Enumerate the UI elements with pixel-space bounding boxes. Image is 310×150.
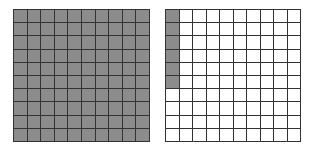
grid-cell bbox=[180, 50, 194, 63]
grid-cell bbox=[274, 116, 288, 129]
grid-cell bbox=[109, 10, 123, 23]
grid-cell bbox=[261, 76, 275, 89]
grid-cell bbox=[96, 129, 110, 142]
grid-cell bbox=[82, 23, 96, 36]
grid-cell bbox=[234, 50, 248, 63]
hundred-grid-fully-shaded bbox=[13, 9, 150, 142]
grid-cell bbox=[82, 10, 96, 23]
grid-cell bbox=[55, 63, 69, 76]
grid-cell bbox=[55, 50, 69, 63]
grid-cell bbox=[247, 63, 261, 76]
grid-cell bbox=[220, 23, 234, 36]
grid-cell bbox=[14, 102, 28, 115]
grid-cell bbox=[123, 63, 137, 76]
grid-cell bbox=[41, 36, 55, 49]
grid-cell bbox=[261, 50, 275, 63]
grid-cell bbox=[220, 102, 234, 115]
grid-cell bbox=[41, 76, 55, 89]
grid-cell bbox=[14, 89, 28, 102]
grid-cell bbox=[193, 76, 207, 89]
grid-cell bbox=[207, 102, 221, 115]
grid-cell bbox=[28, 23, 42, 36]
grid-cell bbox=[109, 23, 123, 36]
grid-cell bbox=[41, 102, 55, 115]
grid-cell bbox=[82, 36, 96, 49]
grid-cell bbox=[109, 116, 123, 129]
grid-cell bbox=[14, 23, 28, 36]
grid-cell bbox=[68, 76, 82, 89]
grid-cell bbox=[207, 129, 221, 142]
grid-cell bbox=[68, 23, 82, 36]
grid-cell bbox=[274, 23, 288, 36]
grid-cell bbox=[288, 89, 302, 102]
grid-cell bbox=[247, 89, 261, 102]
grid-cell bbox=[288, 76, 302, 89]
grid-cell bbox=[166, 116, 180, 129]
grid-cell bbox=[68, 89, 82, 102]
grid-cell bbox=[28, 10, 42, 23]
grid-cell bbox=[166, 129, 180, 142]
grid-cell bbox=[261, 89, 275, 102]
grid-cell bbox=[166, 10, 180, 23]
grid-cell bbox=[288, 129, 302, 142]
grid-cell bbox=[220, 116, 234, 129]
grid-cell bbox=[220, 129, 234, 142]
grid-cell bbox=[55, 89, 69, 102]
grid-cell bbox=[166, 23, 180, 36]
grid-cell bbox=[109, 63, 123, 76]
grid-cell bbox=[274, 10, 288, 23]
grid-cell bbox=[68, 36, 82, 49]
grid-cell bbox=[274, 102, 288, 115]
grid-cell bbox=[274, 36, 288, 49]
grid-cell bbox=[247, 10, 261, 23]
grid-cell bbox=[207, 116, 221, 129]
grid-cell bbox=[41, 63, 55, 76]
grid-cell bbox=[288, 116, 302, 129]
grid-cell bbox=[234, 76, 248, 89]
grid-cell bbox=[68, 10, 82, 23]
grid-cell bbox=[220, 89, 234, 102]
grid-cell bbox=[55, 76, 69, 89]
grid-cell bbox=[166, 63, 180, 76]
grid-cell bbox=[96, 76, 110, 89]
grid-cell bbox=[136, 10, 150, 23]
grid-cell bbox=[234, 89, 248, 102]
grid-cell bbox=[193, 50, 207, 63]
grid-cell bbox=[96, 116, 110, 129]
grid-cell bbox=[136, 36, 150, 49]
grid-cell bbox=[123, 116, 137, 129]
grid-cell bbox=[180, 63, 194, 76]
grid-cell bbox=[136, 63, 150, 76]
grid-cell bbox=[55, 10, 69, 23]
grid-cell bbox=[247, 129, 261, 142]
grid-cell bbox=[274, 76, 288, 89]
grid-cell bbox=[123, 129, 137, 142]
grid-cell bbox=[136, 129, 150, 142]
grid-cell bbox=[96, 63, 110, 76]
hundred-grid-partially-shaded bbox=[165, 9, 301, 142]
grid-cell bbox=[288, 50, 302, 63]
grid-cell bbox=[96, 23, 110, 36]
grid-cell bbox=[180, 23, 194, 36]
grid-cell bbox=[41, 116, 55, 129]
grid-cell bbox=[28, 36, 42, 49]
grid-cell bbox=[68, 63, 82, 76]
grid-cell bbox=[166, 50, 180, 63]
grid-cell bbox=[55, 102, 69, 115]
grid-cell bbox=[234, 129, 248, 142]
grid-cell bbox=[123, 23, 137, 36]
grid-cell bbox=[136, 89, 150, 102]
grid-cell bbox=[247, 50, 261, 63]
grid-cell bbox=[14, 63, 28, 76]
grid-cell bbox=[109, 102, 123, 115]
grid-cell bbox=[14, 36, 28, 49]
grid-cell bbox=[234, 102, 248, 115]
grid-cell bbox=[220, 50, 234, 63]
grid-cell bbox=[136, 23, 150, 36]
grid-cell bbox=[96, 102, 110, 115]
grid-cell bbox=[274, 129, 288, 142]
grid-cell bbox=[193, 116, 207, 129]
grid-cell bbox=[68, 129, 82, 142]
grid-cell bbox=[96, 89, 110, 102]
grid-cell bbox=[123, 50, 137, 63]
